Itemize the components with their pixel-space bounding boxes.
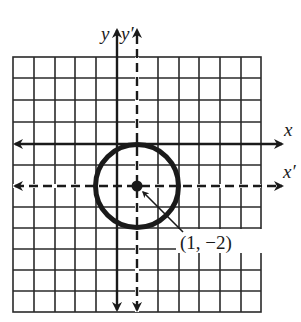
x-axis-label: x: [283, 119, 293, 140]
x-prime-axis-label: x′: [282, 161, 296, 182]
y-axis-label: y: [99, 23, 110, 44]
center-point: [132, 181, 143, 192]
center-coordinate-label: (1, −2): [180, 232, 232, 254]
y-prime-axis-label: y′: [119, 23, 134, 44]
coordinate-diagram: y y′ x x′ (1, −2): [0, 0, 301, 322]
